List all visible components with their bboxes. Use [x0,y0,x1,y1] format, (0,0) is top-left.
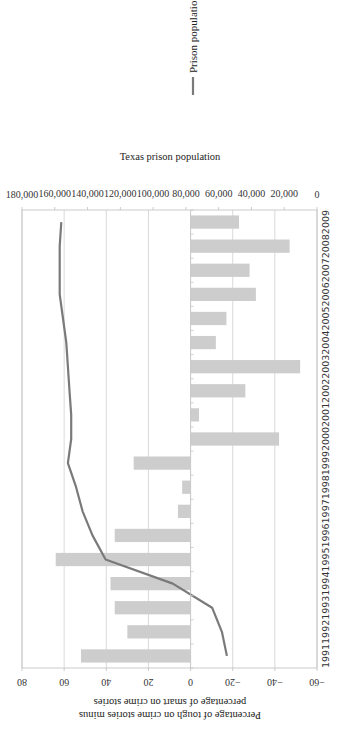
year-label: 1994 [320,572,331,596]
left-axis-tick-label: 0 [188,677,193,688]
legend: Prison population [187,0,199,95]
bar-1995 [56,553,191,566]
year-label: 1995 [320,547,331,571]
bar-2006 [191,288,256,301]
left-axis-tick-label: −40 [267,677,283,688]
bar-2004 [191,336,216,349]
left-axis-tick-label: 60 [59,677,69,688]
year-label: 1998 [320,475,331,499]
bar-2007 [191,264,250,277]
right-axis-tick-label: 120,000 [104,189,137,200]
year-label: 2000 [320,427,331,451]
bar-2001 [191,408,199,421]
year-label: 1999 [320,451,331,475]
right-axis-tick-label: 180,000 [6,189,39,200]
right-axis-title: Texas prison population [120,151,221,162]
right-axis-tick-label: 80,000 [172,189,200,200]
right-axis-tick-label: 160,000 [39,189,72,200]
left-axis-title: Percentage of tough on crime stories min… [79,697,261,721]
bars-tough-minus-smart [56,215,300,662]
bar-1996 [115,529,191,542]
bar-2003 [191,360,301,373]
right-axis-tick-label: 140,000 [71,189,104,200]
left-axis-tick-label: 80 [17,677,27,688]
left-axis-title-line-2: percentage of smart on crime stories [94,697,246,708]
legend-label: Prison population [187,0,199,73]
bar-2002 [191,384,246,397]
right-axis-tick-label: 0 [315,189,320,200]
bar-1991 [81,649,191,662]
bar-1998 [182,481,190,494]
year-label: 2009 [320,210,331,234]
year-label: 1996 [320,523,331,547]
year-label: 2008 [320,234,331,258]
bar-1992 [127,625,190,638]
left-axis-title-line-1: Percentage of tough on crime stories min… [79,710,261,721]
bar-2009 [191,215,239,228]
year-label: 2007 [320,258,331,282]
combo-chart: 806040200−20−40−60180,000160,000140,0001… [0,0,342,740]
bar-1993 [115,601,191,614]
left-axis-tick-label: 20 [143,677,153,688]
chart-container: 806040200−20−40−60180,000160,000140,0001… [0,0,342,740]
year-label: 2003 [320,355,331,379]
year-label: 2001 [320,403,331,427]
bar-1999 [134,456,191,469]
bar-2005 [191,312,227,325]
bar-2000 [191,432,279,445]
left-axis-tick-label: −20 [225,677,241,688]
right-axis-tick-label: 100,000 [137,189,170,200]
year-label: 1997 [320,499,331,523]
right-axis-tick-label: 60,000 [205,189,233,200]
year-label: 2005 [320,306,331,330]
year-label: 2004 [320,330,331,354]
left-axis-tick-label: −60 [309,677,325,688]
right-axis-tick-label: 40,000 [238,189,266,200]
bar-1997 [178,505,191,518]
bar-2008 [191,240,290,253]
year-label: 1992 [320,620,331,644]
year-label: 2002 [320,379,331,403]
year-label: 1991 [320,644,331,668]
right-axis-tick-label: 20,000 [270,189,298,200]
year-label: 1993 [320,596,331,620]
left-axis-tick-label: 40 [101,677,111,688]
year-label: 2006 [320,282,331,306]
